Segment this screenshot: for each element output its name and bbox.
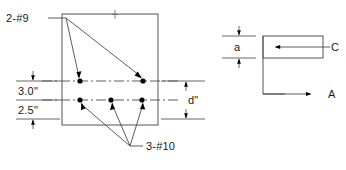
leader-arrowhead-top-left-icon [76, 71, 81, 79]
label-top-bars: 2-#9 [6, 12, 29, 24]
label-bottom-bars: 3-#10 [146, 140, 175, 152]
dim-arrowhead-upper-icon [31, 75, 35, 80]
rebar-dot-top-right [140, 78, 145, 83]
dim-arrowhead-a-top-icon [237, 30, 241, 35]
label-dim-lower: 2.5" [18, 104, 38, 116]
label-dim-block: a [234, 41, 241, 53]
leader-arrowhead-bottom-left-icon [81, 103, 86, 111]
engineering-drawing-figure: 2-#9 3-#10 3.0" 2.5" [0, 0, 346, 170]
rebar-dot-bottom-center [108, 97, 113, 102]
leader-arrowhead-bottom-right-icon [140, 103, 145, 110]
label-force-axial: A [328, 88, 336, 100]
label-force-compression: C [331, 41, 339, 53]
rebar-dot-bottom-left [77, 97, 82, 102]
beam-cross-section-group: 2-#9 3-#10 3.0" 2.5" [6, 10, 205, 152]
rebar-dot-bottom-right [139, 97, 144, 102]
force-arrow-axial-head-icon [306, 92, 312, 96]
leader-arrowhead-bottom-center-icon [110, 103, 115, 110]
dim-arrowhead-depth-top-icon [184, 81, 188, 86]
dim-arrowhead-lower-icon [31, 119, 35, 124]
stress-block-group: a C A [222, 26, 339, 100]
force-arrow-compression-head-icon [275, 45, 281, 49]
label-dim-depth: d" [188, 94, 198, 106]
label-dim-upper: 3.0" [18, 85, 38, 97]
rebar-dot-top-left [77, 78, 82, 83]
dim-arrowhead-depth-bottom-icon [184, 113, 188, 118]
drawing-canvas: 2-#9 3-#10 3.0" 2.5" [0, 0, 346, 170]
dim-arrowhead-a-bottom-icon [237, 58, 241, 63]
